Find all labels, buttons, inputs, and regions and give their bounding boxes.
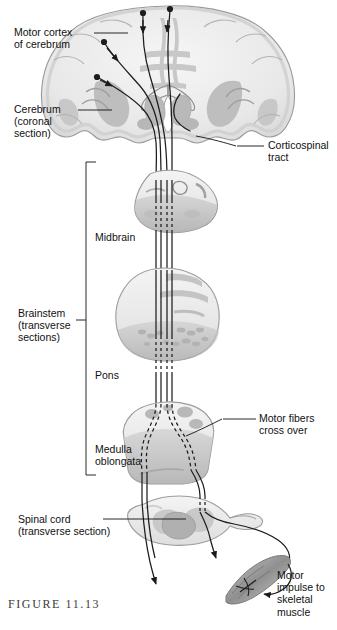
midbrain-section <box>135 170 218 233</box>
spinal-cord-section <box>128 496 263 545</box>
label-brainstem: Brainstem (transverse sections) <box>18 307 71 344</box>
label-medulla-oblongata: Medulla oblongata <box>95 443 141 467</box>
label-cerebrum: Cerebrum (coronal section) <box>14 103 61 140</box>
figure-root: Motor cortex of cerebrum Cerebrum (coron… <box>0 0 337 630</box>
figure-caption: FIGURE 11.13 <box>8 597 100 612</box>
label-motor-cortex: Motor cortex of cerebrum <box>14 26 72 50</box>
label-motor-impulse-to-skeletal-muscle: Motor impulse to skeletal muscle <box>277 569 325 618</box>
label-motor-fibers-cross-over: Motor fibers cross over <box>259 412 314 436</box>
label-spinal-cord: Spinal cord (transverse section) <box>18 513 110 537</box>
label-corticospinal-tract: Corticospinal tract <box>268 139 329 163</box>
brainstem-bracket <box>76 162 96 475</box>
label-midbrain: Midbrain <box>95 231 135 243</box>
label-pons: Pons <box>95 369 119 381</box>
